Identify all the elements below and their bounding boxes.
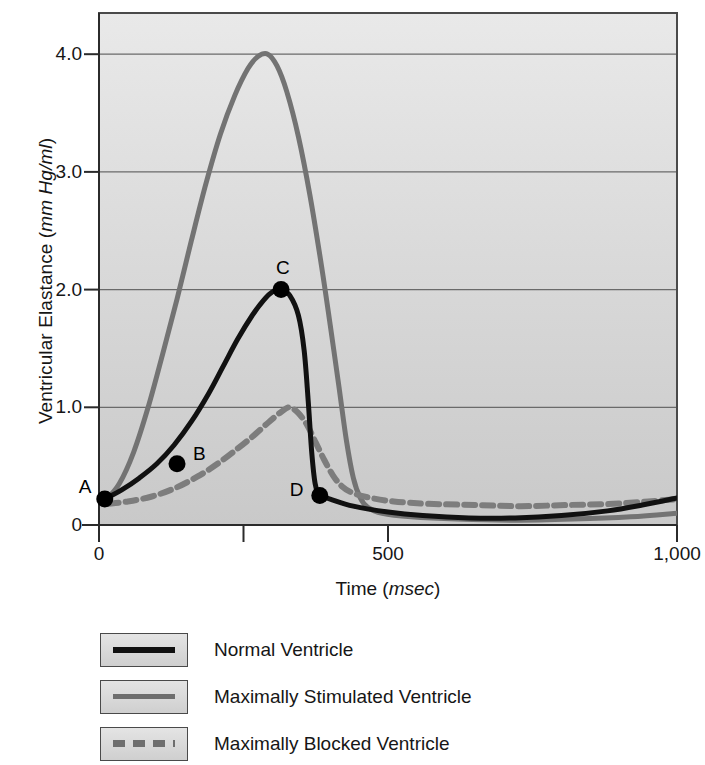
x-axis-title: Time (msec) bbox=[99, 578, 677, 600]
legend-label-1: Maximally Stimulated Ventricle bbox=[214, 686, 472, 708]
x-axis-tick-labels: 05001,000 bbox=[0, 540, 687, 570]
data-point-marker-c bbox=[273, 281, 290, 298]
x-axis-title-unit: msec bbox=[389, 578, 434, 599]
legend-line-dashed bbox=[113, 740, 175, 747]
chart-svg bbox=[0, 0, 687, 600]
legend-label-2: Maximally Blocked Ventricle bbox=[214, 733, 449, 755]
x-tick-label-500: 500 bbox=[358, 544, 418, 563]
x-tick-label-0: 0 bbox=[69, 544, 129, 563]
legend-item-1: Maximally Stimulated Ventricle bbox=[100, 673, 620, 720]
point-label-c: C bbox=[276, 258, 290, 277]
legend-swatch-1 bbox=[100, 680, 188, 714]
legend-item-2: Maximally Blocked Ventricle bbox=[100, 720, 620, 765]
x-axis-title-tail: ) bbox=[434, 578, 440, 599]
legend-swatch-2 bbox=[100, 727, 188, 761]
data-point-marker-a bbox=[96, 491, 113, 508]
y-axis-title-main: Ventricular Elastance ( bbox=[35, 232, 56, 424]
chart-plot-area: 01.02.03.04.0 05001,000 ABCD Ventricular… bbox=[0, 0, 687, 600]
legend-item-0: Normal Ventricle bbox=[100, 626, 620, 673]
point-label-b: B bbox=[193, 444, 206, 463]
legend-label-0: Normal Ventricle bbox=[214, 639, 353, 661]
y-axis-title-unit: mm Hg/ml bbox=[35, 144, 56, 231]
data-point-marker-b bbox=[169, 455, 186, 472]
y-axis-title: Ventricular Elastance (mm Hg/ml) bbox=[35, 46, 57, 516]
y-axis-title-tail: ) bbox=[35, 138, 56, 144]
point-label-a: A bbox=[79, 477, 92, 496]
x-axis-title-main: Time ( bbox=[336, 578, 389, 599]
y-tick-label-0: 0 bbox=[24, 515, 82, 534]
legend-line-solid bbox=[113, 694, 175, 699]
chart-legend: Normal VentricleMaximally Stimulated Ven… bbox=[100, 626, 620, 765]
x-tick-label-1000: 1,000 bbox=[647, 544, 705, 563]
legend-line-solid bbox=[113, 647, 175, 653]
legend-swatch-0 bbox=[100, 633, 188, 667]
data-point-marker-d bbox=[311, 487, 328, 504]
point-label-d: D bbox=[290, 480, 304, 499]
